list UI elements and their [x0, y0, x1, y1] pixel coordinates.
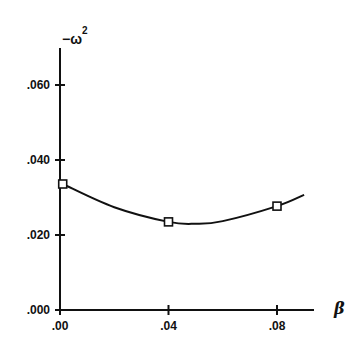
y-axis-label-superscript: 2	[82, 25, 88, 36]
y-tick-label: .000	[27, 303, 51, 317]
x-tick-label: .00	[52, 319, 69, 333]
y-tick-label: .020	[27, 228, 51, 242]
x-axis-label: β	[333, 299, 345, 318]
square-marker-icon	[165, 218, 173, 226]
y-axis-label-text: −ω	[62, 31, 82, 47]
axes	[58, 48, 314, 310]
y-axis-label: −ω 2	[62, 25, 88, 47]
fitted-curve	[63, 184, 304, 224]
x-tick-label: .04	[160, 319, 177, 333]
square-marker-icon	[59, 180, 67, 188]
x-tick-label: .08	[269, 319, 286, 333]
square-marker-icon	[273, 202, 281, 210]
data-markers	[59, 180, 281, 226]
curve-path	[63, 184, 304, 224]
y-tick-label: .040	[27, 153, 51, 167]
chart-canvas: .000.020.040.060 .00.04.08 −ω 2 β	[0, 0, 364, 353]
y-tick-label: .060	[27, 78, 51, 92]
